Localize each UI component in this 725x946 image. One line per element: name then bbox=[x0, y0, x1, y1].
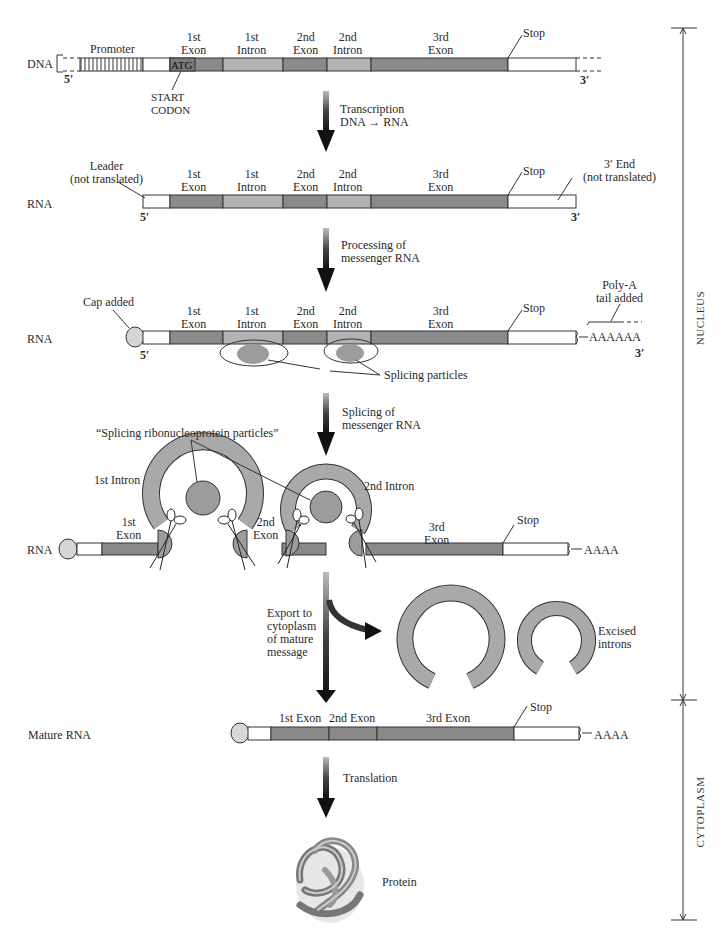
rna1-exon1-label: 1st Exon bbox=[181, 168, 206, 194]
excised-introns bbox=[405, 593, 588, 681]
transcription-step-label: Transcription DNA → RNA bbox=[340, 103, 409, 129]
leader-label: Leader (not translated) bbox=[70, 160, 143, 186]
rna1-five-prime: 5′ bbox=[140, 211, 149, 224]
rna2-intron1-label: 1st Intron bbox=[237, 305, 266, 331]
rna2-exon1-label: 1st Exon bbox=[181, 305, 206, 331]
poly-a-label: Poly-A tail added bbox=[596, 279, 643, 305]
dna-intron2-label: 2nd Intron bbox=[333, 31, 362, 57]
dna-five-prime: 5′ bbox=[64, 73, 73, 86]
mature-stop-label: Stop bbox=[530, 701, 552, 714]
nucleus-label: NUCLEUS bbox=[694, 278, 706, 358]
mature-exon1-label: 1st Exon bbox=[279, 712, 321, 725]
transcription-arrow bbox=[317, 91, 335, 152]
rna1-exon2-label: 2nd Exon bbox=[293, 168, 318, 194]
loop-intron2-label: 2nd Intron bbox=[364, 480, 414, 493]
dna-exon3-label: 3rd Exon bbox=[428, 31, 453, 57]
rna1-exon3-label: 3rd Exon bbox=[428, 168, 453, 194]
dna-promoter-label: Promoter bbox=[90, 43, 135, 56]
rna2-five-prime: 5′ bbox=[140, 349, 149, 362]
rna2-stop-label: Stop bbox=[523, 302, 545, 315]
rna3-stop-label: Stop bbox=[517, 514, 539, 527]
dna-exon2-label: 2nd Exon bbox=[293, 31, 318, 57]
dna-intron1-label: 1st Intron bbox=[237, 31, 266, 57]
splicing-step-label: Splicing of messenger RNA bbox=[342, 406, 421, 432]
rna2-intron2-label: 2nd Intron bbox=[333, 305, 362, 331]
rna1-stop-label: Stop bbox=[523, 165, 545, 178]
protein-label: Protein bbox=[382, 876, 417, 889]
start-codon-label: START CODON bbox=[151, 91, 190, 117]
excised-introns-label: Excised introns bbox=[598, 625, 636, 651]
export-step-label: Export to cytoplasm of mature message bbox=[267, 607, 316, 659]
mature-tail: AAAA bbox=[594, 729, 629, 742]
rna3-exon2-label: 2nd Exon bbox=[253, 516, 278, 542]
snrnp-label: “Splicing ribonucleoprotein particles” bbox=[96, 427, 279, 440]
loop-intron1-label: 1st Intron bbox=[94, 474, 140, 487]
rna2-row-label: RNA bbox=[27, 333, 52, 346]
translation-arrow bbox=[317, 757, 335, 818]
atg-label: ATG bbox=[171, 59, 192, 72]
processing-step-label: Processing of messenger RNA bbox=[341, 239, 420, 265]
dna-strand bbox=[57, 35, 602, 90]
rna1-three-prime: 3′ bbox=[571, 211, 580, 224]
cytoplasm-label: CYTOPLASM bbox=[694, 767, 706, 857]
rna3-exon1-label: 1st Exon bbox=[116, 516, 141, 542]
rna1-row-label: RNA bbox=[27, 198, 52, 211]
three-end-label: 3′ End (not translated) bbox=[583, 158, 656, 184]
poly-a-tail: AAAAAA bbox=[589, 331, 641, 344]
export-arrow bbox=[316, 572, 382, 703]
translation-step-label: Translation bbox=[343, 772, 397, 785]
rna1-intron2-label: 2nd Intron bbox=[333, 168, 362, 194]
dna-row-label: DNA bbox=[27, 58, 53, 71]
mature-exon3-label: 3rd Exon bbox=[426, 712, 470, 725]
protein-icon bbox=[296, 841, 364, 923]
rna3-tail: AAAA bbox=[584, 544, 619, 557]
rna3-exon3-label: 3rd Exon bbox=[424, 521, 449, 547]
rna2-three-prime: 3′ bbox=[635, 347, 644, 360]
dna-stop-label: Stop bbox=[523, 27, 545, 40]
mature-rna-label: Mature RNA bbox=[28, 729, 91, 742]
rna3-row-label: RNA bbox=[27, 544, 52, 557]
dna-exon1-label: 1st Exon bbox=[181, 31, 206, 57]
splicing-particles-label: Splicing particles bbox=[384, 369, 468, 382]
rna1-intron1-label: 1st Intron bbox=[237, 168, 266, 194]
splicing-arrow bbox=[317, 393, 335, 456]
dna-three-prime: 3′ bbox=[580, 74, 589, 87]
rna2-exon3-label: 3rd Exon bbox=[428, 305, 453, 331]
mature-exon2-label: 2nd Exon bbox=[329, 712, 375, 725]
rna2-exon2-label: 2nd Exon bbox=[293, 305, 318, 331]
cap-added-label: Cap added bbox=[83, 296, 134, 309]
processing-arrow bbox=[317, 228, 335, 292]
